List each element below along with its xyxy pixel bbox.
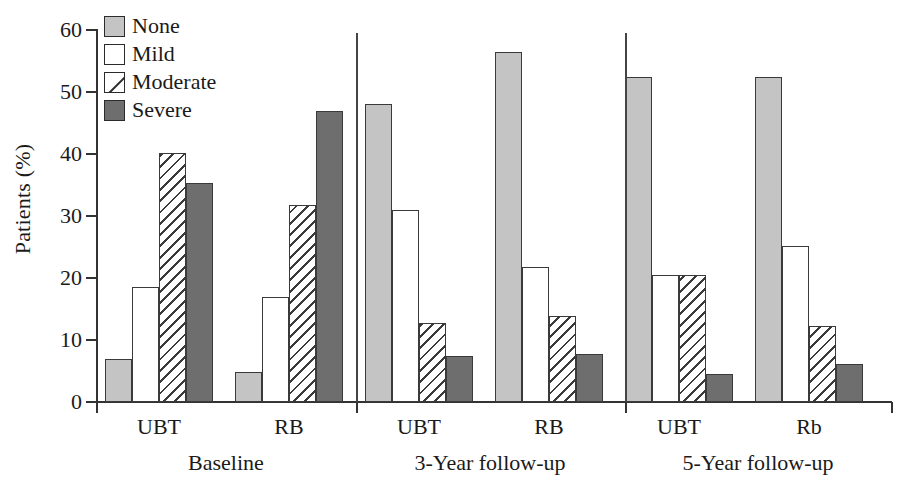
group-label-0: Baseline	[96, 450, 356, 476]
y-axis-title: Patients (%)	[10, 114, 36, 284]
y-tick-label: 10	[36, 329, 82, 351]
legend-item-severe: Severe	[104, 96, 334, 124]
bar-moderate-3	[549, 316, 576, 402]
y-tick-label: 30	[36, 205, 82, 227]
x-label-5: Rb	[749, 414, 869, 440]
x-group-tick-2	[625, 402, 627, 413]
group-separator-2	[625, 33, 627, 402]
group-label-1: 3-Year follow-up	[360, 450, 620, 476]
x-label-0: UBT	[99, 414, 219, 440]
y-tick-30	[86, 215, 96, 217]
bar-severe-0	[186, 183, 213, 402]
bar-none-2	[365, 104, 392, 402]
legend: NoneMildModerateSevere	[104, 12, 334, 124]
x-axis-labels: UBTRBUBTRBUBTRbBaseline3-Year follow-up5…	[0, 402, 901, 484]
legend-swatch-mild-icon	[104, 44, 125, 65]
legend-swatch-severe-icon	[104, 100, 125, 121]
bar-none-3	[495, 52, 522, 402]
y-tick-label: 50	[36, 81, 82, 103]
bar-mild-4	[652, 275, 679, 402]
x-label-2: UBT	[359, 414, 479, 440]
legend-item-mild: Mild	[104, 40, 334, 68]
legend-swatch-moderate-icon	[104, 72, 125, 93]
y-tick-label: 20	[36, 267, 82, 289]
bar-chart: Patients (%) 0102030405060 UBTRBUBTRBUBT…	[0, 0, 901, 484]
bar-moderate-1	[289, 205, 316, 402]
bar-moderate-4	[679, 275, 706, 402]
bar-mild-1	[262, 297, 289, 402]
bar-moderate-0	[159, 153, 186, 402]
bar-none-5	[755, 77, 782, 403]
bar-moderate-5	[809, 326, 836, 402]
bar-severe-3	[576, 354, 603, 402]
legend-label-severe: Severe	[132, 99, 192, 121]
y-tick-label: 40	[36, 143, 82, 165]
legend-item-moderate: Moderate	[104, 68, 334, 96]
group-separator-1	[356, 33, 358, 402]
y-tick-10	[86, 339, 96, 341]
bar-mild-2	[392, 210, 419, 402]
legend-item-none: None	[104, 12, 334, 40]
bar-severe-2	[446, 356, 473, 403]
x-label-3: RB	[489, 414, 609, 440]
bar-none-1	[235, 372, 262, 402]
group-label-2: 5-Year follow-up	[628, 450, 888, 476]
bar-severe-5	[836, 364, 863, 402]
legend-swatch-none-icon	[104, 16, 125, 37]
y-tick-label: 60	[36, 19, 82, 41]
legend-label-none: None	[132, 15, 180, 37]
legend-label-moderate: Moderate	[132, 71, 216, 93]
y-tick-50	[86, 91, 96, 93]
bar-moderate-2	[419, 323, 446, 402]
bar-none-0	[105, 359, 132, 402]
y-tick-20	[86, 277, 96, 279]
bar-severe-1	[316, 111, 343, 402]
bar-severe-4	[706, 374, 733, 402]
x-group-tick-3	[891, 402, 893, 413]
y-tick-60	[86, 29, 96, 31]
x-label-1: RB	[229, 414, 349, 440]
x-group-tick-0	[96, 402, 98, 413]
legend-label-mild: Mild	[132, 43, 175, 65]
y-tick-40	[86, 153, 96, 155]
x-label-4: UBT	[619, 414, 739, 440]
bar-none-4	[625, 77, 652, 403]
bar-mild-5	[782, 246, 809, 402]
bar-mild-3	[522, 267, 549, 402]
x-group-tick-1	[356, 402, 358, 413]
bar-mild-0	[132, 287, 159, 402]
